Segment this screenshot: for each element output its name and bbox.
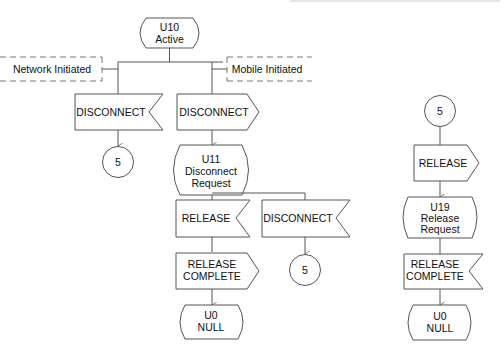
state-u0-right-line2: NULL xyxy=(427,322,454,334)
state-u10-line2: Active xyxy=(155,33,184,45)
state-u11-disconnect-request[interactable]: U11 Disconnect Request xyxy=(174,145,249,195)
signal-release-complete-output[interactable]: RELEASE COMPLETE xyxy=(176,253,259,289)
state-u10-line1: U10 xyxy=(160,21,179,33)
annotation-mobile-initiated: Mobile Initiated xyxy=(212,57,312,81)
signal-release-complete-input-line1: RELEASE xyxy=(411,258,459,270)
signal-release-complete-input-line2: COMPLETE xyxy=(406,270,464,282)
signal-release-output-label: RELEASE xyxy=(419,157,467,169)
state-u0-null-right[interactable]: U0 NULL xyxy=(408,305,471,340)
connector-5-right-label: 5 xyxy=(437,105,443,117)
state-u0-null-left[interactable]: U0 NULL xyxy=(180,305,243,339)
connector-5-right[interactable]: 5 xyxy=(425,96,456,127)
state-u0-left-line1: U0 xyxy=(204,309,218,321)
signal-release-input[interactable]: RELEASE xyxy=(176,200,250,237)
state-u10-active[interactable]: U10 Active xyxy=(140,18,199,48)
connector-5-middle-label: 5 xyxy=(302,264,308,276)
state-u0-right-line1: U0 xyxy=(433,310,447,322)
state-u0-left-line2: NULL xyxy=(198,321,225,333)
signal-release-complete-input[interactable]: RELEASE COMPLETE xyxy=(404,254,483,289)
signal-disconnect-output[interactable]: DISCONNECT xyxy=(177,94,259,130)
state-u11-line2: Disconnect xyxy=(185,165,237,177)
state-u19-line3: Request xyxy=(420,223,459,235)
annotation-network-initiated-label: Network Initiated xyxy=(13,63,91,75)
signal-release-complete-output-line2: COMPLETE xyxy=(183,270,241,282)
signal-release-complete-output-line1: RELEASE xyxy=(188,258,236,270)
connector-5-middle[interactable]: 5 xyxy=(290,255,321,286)
signal-disconnect-input-2-label: DISCONNECT xyxy=(263,212,333,224)
signal-release-output[interactable]: RELEASE xyxy=(414,145,479,181)
state-u19-release-request[interactable]: U19 Release Request xyxy=(403,197,477,238)
signal-disconnect-input[interactable]: DISCONNECT xyxy=(75,94,163,130)
state-u11-line1: U11 xyxy=(202,153,221,165)
connector-5-left-label: 5 xyxy=(115,156,121,168)
signal-disconnect-input-label: DISCONNECT xyxy=(76,106,146,118)
signal-disconnect-output-label: DISCONNECT xyxy=(179,106,249,118)
sdl-flowchart: U10 Active Network Initiated Mobile Init… xyxy=(0,0,504,360)
signal-disconnect-input-2[interactable]: DISCONNECT xyxy=(262,200,350,237)
connector-5-left[interactable]: 5 xyxy=(103,147,134,178)
signal-release-input-label: RELEASE xyxy=(182,212,230,224)
state-u11-line3: Request xyxy=(191,177,230,189)
annotation-network-initiated: Network Initiated xyxy=(0,57,118,81)
annotation-mobile-initiated-label: Mobile Initiated xyxy=(232,63,303,75)
